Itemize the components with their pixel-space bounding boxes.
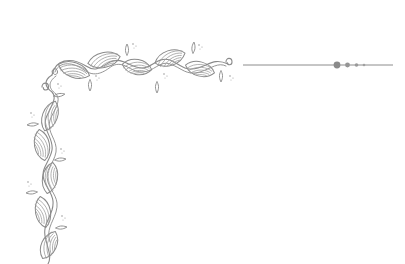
divider-line <box>243 62 393 69</box>
sprout-icon <box>125 44 128 55</box>
sprout-icon <box>26 190 37 194</box>
leaf-icon <box>36 228 62 262</box>
left-vine <box>26 69 67 264</box>
divider-dot-icon <box>345 63 350 68</box>
sprout-icon <box>219 71 222 82</box>
sprout-icon <box>55 157 66 161</box>
vine-corner-ornament <box>0 0 405 264</box>
top-vine <box>52 42 234 93</box>
divider-dot-icon <box>363 64 366 67</box>
leaf-icon <box>33 195 53 229</box>
divider-dot-icon <box>334 62 341 69</box>
divider-dot-icon <box>355 63 359 67</box>
sprout-icon <box>191 42 195 53</box>
sprout-icon <box>27 122 38 126</box>
sprout-icon <box>56 225 67 229</box>
leaf-icon <box>38 99 63 134</box>
sprout-icon <box>155 82 158 93</box>
sprout-icon <box>88 80 91 91</box>
leaf-icon <box>32 128 52 162</box>
